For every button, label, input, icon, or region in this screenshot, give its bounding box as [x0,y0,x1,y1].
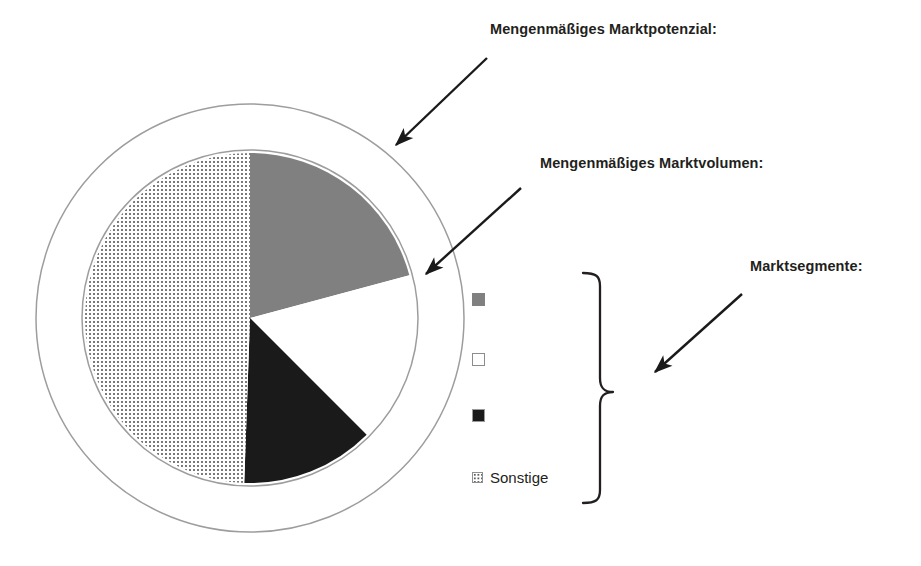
label-marktsegmente: Marktsegmente: [750,258,863,274]
legend-swatch-white-square-icon [472,353,485,366]
legend-item-label-sonstige: Sonstige [490,469,548,486]
chart-legend: Sonstige [472,291,592,491]
legend-swatch-gray-square-icon [472,293,485,306]
legend-item [472,291,492,307]
legend-item [472,351,492,367]
legend-swatch-dotted-square-icon [472,472,483,483]
label-marktpotenzial: Mengenmäßiges Marktpotenzial: [490,21,717,37]
legend-item: Sonstige [472,469,548,485]
pie-chart [0,0,921,566]
label-marktvolumen: Mengenmäßiges Marktvolumen: [540,155,763,171]
legend-swatch-black-square-icon [472,409,485,422]
figure-canvas: Mengenmäßiges Marktpotenzial: Mengenmäßi… [0,0,921,566]
pie-slices [85,153,415,483]
legend-item [472,407,492,423]
pie-slice [85,153,250,483]
